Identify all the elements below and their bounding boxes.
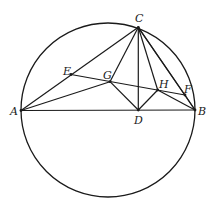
geometry-diagram: A B C D E G H F [0,0,211,215]
point-D [137,109,140,112]
point-C [137,26,140,29]
label-D: D [133,114,143,127]
point-A [20,109,23,112]
segment-CG [110,27,138,81]
label-E: E [62,65,71,78]
label-H: H [158,78,169,91]
segment-AC [21,27,138,110]
segment-DH [138,90,157,110]
label-F: F [183,83,192,96]
label-A: A [9,105,18,118]
label-G: G [103,69,112,82]
point-B [194,109,197,112]
segment-AB [21,110,195,111]
segment-AG [21,82,110,111]
label-B: B [197,105,206,118]
label-C: C [135,12,144,25]
